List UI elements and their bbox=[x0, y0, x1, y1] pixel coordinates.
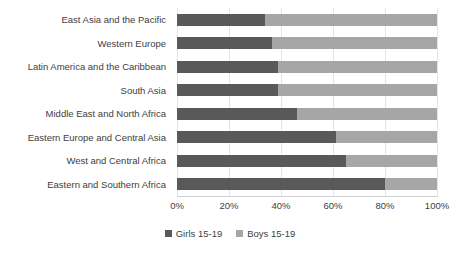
bar-segment bbox=[385, 178, 437, 190]
bar-segment bbox=[336, 131, 437, 143]
gridline bbox=[281, 8, 282, 196]
plot-area bbox=[177, 8, 437, 196]
value-axis-tick-label: 20% bbox=[219, 199, 238, 212]
gridline bbox=[333, 8, 334, 196]
category-label: Eastern and Southern Africa bbox=[0, 179, 166, 190]
chart-legend: Girls 15-19Boys 15-19 bbox=[0, 228, 460, 239]
bar-row bbox=[177, 108, 437, 120]
gridline bbox=[177, 8, 178, 196]
category-axis: East Asia and the PacificWestern EuropeL… bbox=[0, 8, 172, 196]
legend-swatch-icon bbox=[236, 230, 243, 237]
bar-segment bbox=[177, 37, 272, 49]
bar-segment bbox=[177, 155, 346, 167]
category-label: Latin America and the Caribbean bbox=[0, 61, 166, 72]
legend-swatch-icon bbox=[165, 230, 172, 237]
bar-segment bbox=[177, 178, 385, 190]
bar-row bbox=[177, 14, 437, 26]
axis-baseline bbox=[177, 196, 438, 197]
bar-segment bbox=[177, 14, 265, 26]
bar-row bbox=[177, 84, 437, 96]
value-axis-tick-label: 100% bbox=[425, 199, 449, 212]
bar-segment bbox=[177, 131, 336, 143]
legend-label: Girls 15-19 bbox=[176, 228, 222, 239]
value-axis-tick-label: 60% bbox=[323, 199, 342, 212]
legend-item[interactable]: Boys 15-19 bbox=[236, 228, 295, 239]
gridline bbox=[229, 8, 230, 196]
stacked-bar-chart: East Asia and the PacificWestern EuropeL… bbox=[0, 0, 460, 259]
bar-segment bbox=[272, 37, 437, 49]
value-axis-tick-label: 40% bbox=[271, 199, 290, 212]
bar-row bbox=[177, 61, 437, 73]
bar-segment bbox=[278, 84, 437, 96]
category-label: West and Central Africa bbox=[0, 155, 166, 166]
bar-segment bbox=[177, 108, 297, 120]
bar-segment bbox=[346, 155, 437, 167]
bar-row bbox=[177, 178, 437, 190]
bar-segment bbox=[278, 61, 437, 73]
category-label: Eastern Europe and Central Asia bbox=[0, 132, 166, 143]
legend-item[interactable]: Girls 15-19 bbox=[165, 228, 222, 239]
bar-segment bbox=[177, 84, 278, 96]
category-label: Western Europe bbox=[0, 38, 166, 49]
value-axis-tick-label: 0% bbox=[170, 199, 184, 212]
bar-segment bbox=[265, 14, 437, 26]
bar-row bbox=[177, 131, 437, 143]
gridline bbox=[385, 8, 386, 196]
value-axis: 0%20%40%60%80%100% bbox=[177, 199, 437, 213]
value-axis-tick-label: 80% bbox=[375, 199, 394, 212]
bar-segment bbox=[177, 61, 278, 73]
bar-segment bbox=[297, 108, 437, 120]
category-label: East Asia and the Pacific bbox=[0, 14, 166, 25]
bar-row bbox=[177, 155, 437, 167]
legend-label: Boys 15-19 bbox=[247, 228, 295, 239]
category-label: Middle East and North Africa bbox=[0, 108, 166, 119]
bar-row bbox=[177, 37, 437, 49]
gridline bbox=[437, 8, 438, 196]
category-label: South Asia bbox=[0, 85, 166, 96]
